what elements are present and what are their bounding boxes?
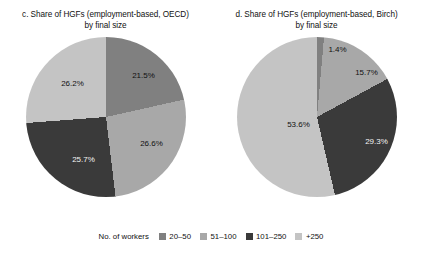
legend-item-label: 20–50 <box>169 232 191 241</box>
pie-slice-label: 25.7% <box>72 155 95 164</box>
pie-slice-label: 15.7% <box>355 68 378 77</box>
legend-items: 20–5051–100101–250+250 <box>159 232 324 241</box>
pie-slice-label: 1.4% <box>328 45 346 54</box>
panel-d-title-line1: d. Share of HGFs (employment-based, Birc… <box>235 10 397 19</box>
panel-d-title-line2: by final size <box>211 20 422 31</box>
pie-slice-label: 29.3% <box>365 137 388 146</box>
pie-chart-c <box>26 37 186 197</box>
legend-item-label: +250 <box>306 232 324 241</box>
legend: No. of workers 20–5051–100101–250+250 <box>0 232 422 241</box>
legend-swatch-icon <box>200 233 207 240</box>
pie-slice-label: 53.6% <box>287 120 310 129</box>
legend-item-label: 51–100 <box>211 232 237 241</box>
pie-slice-label: 26.6% <box>140 139 163 148</box>
legend-swatch-icon <box>159 233 166 240</box>
pie-chart-d <box>237 37 397 197</box>
panel-d: d. Share of HGFs (employment-based, Birc… <box>211 0 422 225</box>
legend-item[interactable]: 101–250 <box>246 232 287 241</box>
legend-swatch-icon <box>295 233 302 240</box>
pie-slice-label: 21.5% <box>132 71 155 80</box>
pie-slice-label: 26.2% <box>61 79 84 88</box>
legend-item-label: 101–250 <box>256 232 286 241</box>
panel-c: c. Share of HGFs (employment-based, OECD… <box>0 0 211 225</box>
panel-c-title-line2: by final size <box>0 20 211 31</box>
panel-d-title: d. Share of HGFs (employment-based, Birc… <box>211 0 422 31</box>
panel-c-title: c. Share of HGFs (employment-based, OECD… <box>0 0 211 31</box>
figure-container: c. Share of HGFs (employment-based, OECD… <box>0 0 422 261</box>
panels-row: c. Share of HGFs (employment-based, OECD… <box>0 0 422 225</box>
legend-item[interactable]: +250 <box>295 232 323 241</box>
panel-d-pie-wrap: 1.4%15.7%29.3%53.6% <box>211 31 422 203</box>
legend-swatch-icon <box>246 233 253 240</box>
panel-c-title-line1: c. Share of HGFs (employment-based, OECD… <box>22 10 189 19</box>
legend-item[interactable]: 51–100 <box>200 232 237 241</box>
panel-c-pie-wrap: 21.5%26.6%25.7%26.2% <box>0 31 211 203</box>
legend-item[interactable]: 20–50 <box>159 232 191 241</box>
legend-title: No. of workers <box>99 232 149 241</box>
